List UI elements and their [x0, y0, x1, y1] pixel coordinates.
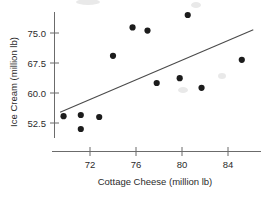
data-point [198, 85, 204, 91]
scatter-plot-figure: 75.0 67.5 60.0 52.5 Ice Cream (million l… [0, 0, 268, 197]
regression-line [60, 30, 253, 112]
data-point [177, 75, 183, 81]
data-point [110, 53, 116, 59]
x-tick-label-84: 84 [223, 159, 234, 170]
data-point [144, 28, 150, 34]
data-point [129, 24, 135, 30]
data-point [185, 12, 191, 18]
data-point [154, 80, 160, 86]
y-axis-title: Ice Cream (million lb) [8, 37, 19, 127]
data-point [239, 57, 245, 63]
x-axis: 72 76 80 84 Cottage Cheese (million lb) [52, 147, 261, 187]
y-tick-label-75: 75.0 [28, 28, 47, 39]
x-tick-label-72: 72 [85, 159, 96, 170]
scan-artifact [76, 0, 226, 93]
data-point [60, 113, 66, 119]
y-tick-label-67-5: 67.5 [28, 58, 47, 69]
x-axis-title: Cottage Cheese (million lb) [98, 176, 213, 187]
data-points-layer [60, 12, 244, 132]
y-tick-label-60: 60.0 [28, 88, 47, 99]
data-point [96, 114, 102, 120]
data-point [78, 112, 84, 118]
x-tick-label-76: 76 [131, 159, 142, 170]
x-tick-label-80: 80 [177, 159, 188, 170]
y-tick-label-52-5: 52.5 [28, 118, 47, 129]
data-point [78, 126, 84, 132]
plot-canvas: 75.0 67.5 60.0 52.5 Ice Cream (million l… [0, 0, 268, 197]
y-axis: 75.0 67.5 60.0 52.5 Ice Cream (million l… [8, 12, 59, 138]
